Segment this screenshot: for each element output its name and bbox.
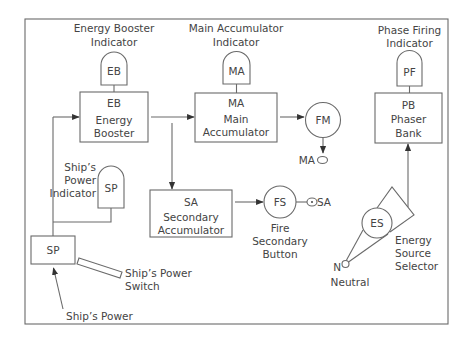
fire-secondary-label-line2: Secondary <box>252 235 308 247</box>
phaser-bank-name-line1: Phaser <box>391 113 427 125</box>
fire-main-button: FM <box>306 103 341 138</box>
energy-booster-indicator-title: Energy Booster <box>74 22 155 34</box>
secondary-accumulator-name-line1: Secondary <box>163 211 219 223</box>
main-accumulator-code: MA <box>228 97 245 109</box>
main-accumulator-indicator: Main Accumulator Indicator MA <box>189 22 284 93</box>
ships-power-box: SP <box>31 236 75 264</box>
main-accumulator-indicator-title: Main Accumulator <box>189 22 284 34</box>
sp-indicator-connector <box>53 208 111 222</box>
main-accumulator-name-line2: Accumulator <box>203 126 270 138</box>
energy-booster-indicator: Energy Booster Indicator EB <box>74 22 155 92</box>
energy-booster-indicator-code: EB <box>107 65 121 77</box>
ships-power-switch-label-line2: Switch <box>125 280 160 292</box>
selector-label-line2: Source <box>395 247 431 259</box>
ships-power-indicator-code: SP <box>105 182 118 194</box>
phaser-bank-code: PB <box>402 99 416 111</box>
secondary-accumulator-name-line2: Accumulator <box>158 224 225 236</box>
selector-neutral-wedge <box>346 230 363 261</box>
selector-neutral-wedge <box>349 234 389 262</box>
ships-power-indicator-label-line1: Ship’s <box>64 161 96 173</box>
energy-booster-code: EB <box>107 97 121 109</box>
phaser-control-diagram: Energy Booster Indicator EB EB Energy Bo… <box>0 0 469 344</box>
ships-power-indicator: Ship’s Power Indicator SP <box>50 161 124 208</box>
energy-booster-name-line2: Booster <box>94 127 135 139</box>
neutral-position-icon <box>342 261 349 268</box>
fire-main-output-label: MA <box>299 154 316 166</box>
energy-source-selector: ES N Neutral Energy Source Selector <box>331 144 439 288</box>
secondary-accumulator-box: SA Secondary Accumulator <box>150 190 232 237</box>
phaser-bank-name-line2: Bank <box>395 127 422 139</box>
energy-booster-name-line1: Energy <box>96 114 133 126</box>
ships-power-switch-label-line1: Ship’s Power <box>125 267 192 279</box>
output-port-icon <box>318 157 328 164</box>
neutral-code: N <box>333 261 341 273</box>
energy-booster-indicator-subtitle: Indicator <box>91 36 138 48</box>
neutral-label: Neutral <box>331 276 370 288</box>
power-input-label: Ship’s Power <box>66 310 133 322</box>
ships-power-indicator-label-line2: Power <box>64 174 96 186</box>
phaser-bank-box: PB Phaser Bank <box>375 93 442 143</box>
ships-power-switch: Ship’s Power Switch <box>77 258 192 292</box>
fire-secondary-label-line3: Button <box>262 248 297 260</box>
phase-firing-indicator-code: PF <box>403 66 415 78</box>
power-input-arrow <box>54 268 64 309</box>
main-accumulator-name-line1: Main <box>223 113 248 125</box>
switch-lever-icon <box>77 258 122 278</box>
selector-label-line1: Energy <box>395 234 432 246</box>
fire-secondary-label-line1: Fire <box>271 222 290 234</box>
output-port-icon <box>307 198 317 206</box>
phase-firing-indicator: Phase Firing Indicator PF <box>378 24 441 93</box>
fire-secondary-output-label: SA <box>317 196 332 208</box>
fire-main-code: FM <box>315 114 330 126</box>
secondary-accumulator-code: SA <box>184 196 199 208</box>
phase-firing-indicator-title: Phase Firing <box>378 24 441 36</box>
energy-booster-box: EB Energy Booster <box>80 92 148 142</box>
phase-firing-indicator-subtitle: Indicator <box>386 37 433 49</box>
selector-label-line3: Selector <box>395 260 439 272</box>
main-accumulator-indicator-code: MA <box>228 65 245 77</box>
main-accumulator-indicator-subtitle: Indicator <box>213 36 260 48</box>
fire-secondary-button: FS Fire Secondary Button <box>252 186 308 260</box>
ships-power-code: SP <box>47 244 60 256</box>
fire-secondary-code: FS <box>274 196 287 208</box>
selector-code: ES <box>370 217 384 229</box>
ships-power-indicator-label-line3: Indicator <box>50 187 97 199</box>
main-accumulator-box: MA Main Accumulator <box>195 93 277 142</box>
